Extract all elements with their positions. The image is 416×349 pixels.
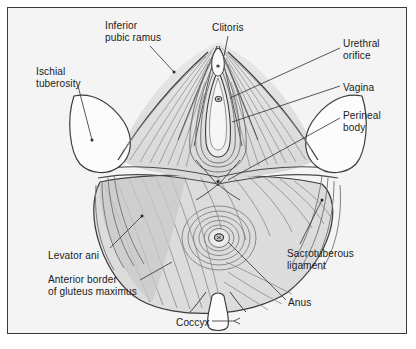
label-anterior-border-gluteus-maximus: Anterior border of gluteus maximus: [48, 274, 137, 297]
illustration-plate: Inferior pubic ramus Clitoris Urethral o…: [0, 0, 416, 349]
label-inferior-pubic-ramus: Inferior pubic ramus: [105, 20, 161, 43]
label-perineal-body: Perineal body: [343, 110, 381, 133]
label-coccyx: Coccyx: [176, 317, 210, 329]
ischial-tuberosity-left: [70, 95, 131, 172]
label-anus: Anus: [288, 297, 311, 309]
label-sacrotuberous-ligament: Sacrotuberous ligament: [287, 248, 354, 271]
urogenital-triangle: [118, 42, 318, 178]
ischial-tuberosity-right: [306, 95, 367, 172]
label-levator-ani: Levator ani: [48, 250, 99, 262]
perineal-body-node: [216, 180, 219, 183]
label-ischial-tuberosity: Ischial tuberosity: [36, 66, 81, 89]
label-vagina: Vagina: [343, 82, 374, 94]
anal-sphincter: [182, 206, 256, 270]
label-urethral-orifice: Urethral orifice: [343, 38, 380, 61]
label-clitoris: Clitoris: [212, 22, 244, 34]
